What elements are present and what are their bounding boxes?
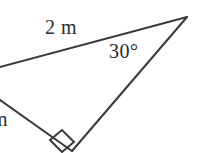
triangle-side-top xyxy=(0,17,187,76)
triangle-side-right xyxy=(72,17,187,151)
angle-label-30-degrees: 30° xyxy=(109,41,139,61)
side-length-label-top: 2 m xyxy=(45,17,77,37)
right-triangle-figure: 2 m 30° m xyxy=(0,0,197,153)
side-length-label-left: m xyxy=(0,109,8,129)
triangle-side-left xyxy=(0,76,72,151)
triangle-drawing xyxy=(0,0,197,153)
